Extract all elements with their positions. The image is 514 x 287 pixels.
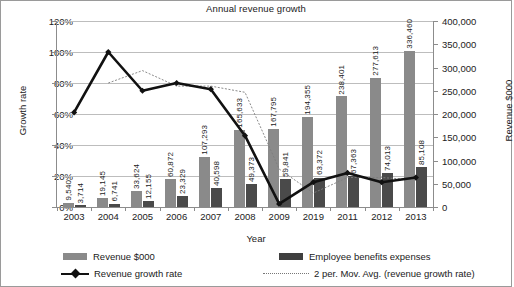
secondary-y-axis-tick bbox=[434, 161, 438, 162]
bar-expenses bbox=[314, 178, 325, 207]
legend-item-revenue: Revenue $000 bbox=[63, 250, 155, 262]
bar-expenses bbox=[177, 196, 188, 207]
x-axis-tick-label: 2009 bbox=[269, 211, 290, 222]
expenses-swatch-icon bbox=[279, 253, 303, 260]
secondary-y-axis-tick-label: 0 bbox=[442, 202, 447, 213]
x-axis-tick bbox=[296, 207, 297, 211]
secondary-y-axis-tick-label: 300,000 bbox=[442, 62, 476, 73]
bar-label-revenue: 238,401 bbox=[337, 65, 346, 95]
secondary-y-axis-tick-label: 400,000 bbox=[442, 16, 476, 27]
x-axis-line bbox=[56, 207, 434, 208]
x-axis-tick-label: 2012 bbox=[371, 211, 392, 222]
growth-rate-marker bbox=[139, 88, 145, 94]
bar-label-revenue: 336,460 bbox=[405, 19, 414, 49]
bar-label-expenses: 49,373 bbox=[247, 157, 256, 182]
bar-label-revenue: 165,633 bbox=[235, 98, 244, 128]
bar-revenue bbox=[336, 96, 347, 207]
bar-label-revenue: 33,624 bbox=[132, 164, 141, 189]
legend-label-growth-rate: Revenue growth rate bbox=[94, 268, 182, 279]
bar-label-expenses: 74,013 bbox=[383, 146, 392, 171]
x-axis-title: Year bbox=[1, 233, 511, 244]
x-axis-tick-label: 2019 bbox=[303, 211, 324, 222]
secondary-y-axis-title: Revenue $000 bbox=[503, 66, 514, 156]
y-axis-tick bbox=[52, 52, 56, 53]
secondary-y-axis-tick-label: 50,000 bbox=[442, 178, 471, 189]
y-axis-tick bbox=[52, 21, 56, 22]
bar-label-revenue: 9,540 bbox=[64, 180, 73, 201]
secondary-y-axis-tick bbox=[434, 21, 438, 22]
bar-revenue bbox=[199, 157, 210, 207]
secondary-y-axis-tick bbox=[434, 207, 438, 208]
bar-label-expenses: 63,372 bbox=[315, 150, 324, 175]
x-axis-tick bbox=[365, 207, 366, 211]
secondary-y-axis-tick bbox=[434, 114, 438, 115]
bar-expenses bbox=[75, 205, 86, 207]
y-axis-tick bbox=[52, 83, 56, 84]
bar-label-revenue: 277,613 bbox=[371, 46, 380, 76]
bar-label-revenue: 167,795 bbox=[269, 97, 278, 127]
secondary-y-axis-tick-label: 200,000 bbox=[442, 109, 476, 120]
legend-label-moving-average: 2 per. Mov. Avg. (revenue growth rate) bbox=[314, 268, 475, 279]
x-axis-tick bbox=[160, 207, 161, 211]
plot-area: 9,5403,71419,1456,74133,62412,15560,8722… bbox=[57, 21, 433, 207]
bar-expenses bbox=[348, 176, 359, 207]
growth-rate-line-icon bbox=[61, 269, 89, 278]
y-axis-tick bbox=[52, 176, 56, 177]
bar-label-expenses: 3,714 bbox=[76, 183, 85, 204]
bar-revenue bbox=[165, 179, 176, 207]
bar-revenue bbox=[268, 129, 279, 207]
growth-rate-marker bbox=[208, 86, 214, 92]
x-axis-tick-label: 2011 bbox=[337, 211, 357, 222]
x-axis-tick bbox=[194, 207, 195, 211]
secondary-y-axis-tick bbox=[434, 68, 438, 69]
secondary-y-axis-tick-label: 350,000 bbox=[442, 39, 476, 50]
bar-expenses bbox=[280, 179, 291, 207]
x-axis-tick-label: 2007 bbox=[200, 211, 221, 222]
y-axis-tick bbox=[52, 145, 56, 146]
x-axis-tick bbox=[57, 207, 58, 211]
bar-expenses bbox=[246, 184, 257, 207]
bar-label-expenses: 85,108 bbox=[417, 140, 426, 165]
secondary-y-axis-tick-label: 100,000 bbox=[442, 155, 476, 166]
chart-legend: Revenue $000 Employee benefits expenses … bbox=[1, 246, 511, 286]
bar-revenue bbox=[63, 203, 74, 207]
bar-label-expenses: 6,741 bbox=[110, 181, 119, 202]
bar-label-expenses: 23,329 bbox=[178, 169, 187, 194]
bar-expenses bbox=[109, 204, 120, 207]
x-axis-tick bbox=[125, 207, 126, 211]
x-axis-tick bbox=[330, 207, 331, 211]
bar-expenses bbox=[382, 173, 393, 207]
revenue-swatch-icon bbox=[63, 253, 87, 260]
secondary-y-axis-tick bbox=[434, 184, 438, 185]
bar-expenses bbox=[211, 188, 222, 207]
legend-label-revenue: Revenue $000 bbox=[93, 251, 155, 262]
bar-label-revenue: 194,355 bbox=[303, 85, 312, 115]
bar-revenue bbox=[234, 130, 245, 207]
legend-item-growth-rate: Revenue growth rate bbox=[61, 267, 182, 279]
moving-average-line-icon bbox=[263, 269, 309, 278]
y-axis-tick bbox=[52, 114, 56, 115]
revenue-growth-rate-line bbox=[74, 52, 416, 204]
secondary-y-axis-tick bbox=[434, 44, 438, 45]
x-axis-tick bbox=[228, 207, 229, 211]
bar-revenue bbox=[302, 117, 313, 207]
x-axis-tick-label: 2004 bbox=[98, 211, 119, 222]
bar-revenue bbox=[370, 78, 381, 207]
bar-label-expenses: 59,841 bbox=[281, 152, 290, 177]
bar-label-revenue: 60,872 bbox=[166, 152, 175, 177]
legend-label-expenses: Employee benefits expenses bbox=[309, 251, 430, 262]
bar-revenue bbox=[404, 51, 415, 207]
bar-label-revenue: 19,145 bbox=[98, 171, 107, 196]
x-axis-tick-label: 2005 bbox=[132, 211, 153, 222]
x-axis-tick-label: 2006 bbox=[166, 211, 187, 222]
x-axis-tick bbox=[262, 207, 263, 211]
x-axis-tick-label: 2003 bbox=[64, 211, 85, 222]
legend-item-moving-average: 2 per. Mov. Avg. (revenue growth rate) bbox=[263, 267, 475, 279]
secondary-y-axis-tick bbox=[434, 91, 438, 92]
secondary-y-axis-tick-label: 250,000 bbox=[442, 85, 476, 96]
x-axis-tick bbox=[399, 207, 400, 211]
x-axis-tick-label: 2008 bbox=[234, 211, 255, 222]
x-axis-tick bbox=[433, 207, 434, 211]
y-axis-tick bbox=[52, 207, 56, 208]
